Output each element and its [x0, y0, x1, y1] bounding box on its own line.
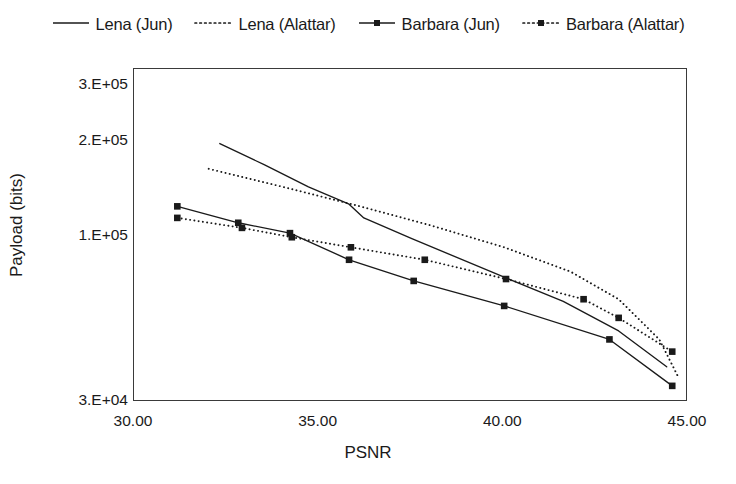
legend-item-barbara-alattar: Barbara (Alattar): [522, 15, 685, 34]
x-tick-label: 30.00: [78, 412, 188, 430]
x-axis-title: PSNR: [0, 443, 736, 463]
legend-label: Barbara (Alattar): [566, 15, 685, 34]
y-tick-label: 3.E+05: [38, 75, 128, 93]
plot-area: [133, 68, 687, 401]
y-axis-title: Payload (bits): [7, 145, 27, 305]
legend-label: Lena (Alattar): [238, 15, 335, 34]
legend-item-lena-alattar: Lena (Alattar): [194, 15, 335, 34]
x-tick-label: 35.00: [263, 412, 373, 430]
y-tick-label: 1.E+05: [38, 226, 128, 244]
chart-figure: Lena (Jun) Lena (Alattar) Barbara (Jun): [0, 0, 736, 484]
x-tick-label: 45.00: [632, 412, 736, 430]
legend-marker-dotted-line: [194, 15, 232, 33]
legend-marker-solid-line-square: [358, 15, 396, 33]
x-tick-label: 40.00: [447, 412, 557, 430]
legend-label: Barbara (Jun): [402, 15, 500, 34]
legend-item-barbara-jun: Barbara (Jun): [358, 15, 500, 34]
y-tick-label: 2.E+05: [38, 131, 128, 149]
legend-marker-dotted-line-square: [522, 15, 560, 33]
y-tick-label: 3.E+04: [38, 391, 128, 409]
